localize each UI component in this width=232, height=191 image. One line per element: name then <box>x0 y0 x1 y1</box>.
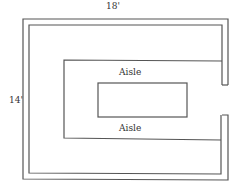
center-display <box>98 83 187 117</box>
inner-wall <box>29 25 222 174</box>
floor-plan-drawing <box>0 0 232 191</box>
aisle-boundary <box>64 60 222 140</box>
height-label: 14' <box>9 96 23 105</box>
width-label: 18' <box>106 2 120 11</box>
aisle-label-bottom: Aisle <box>119 124 141 133</box>
aisle-label-top: Aisle <box>119 68 141 77</box>
outer-wall <box>23 19 228 180</box>
